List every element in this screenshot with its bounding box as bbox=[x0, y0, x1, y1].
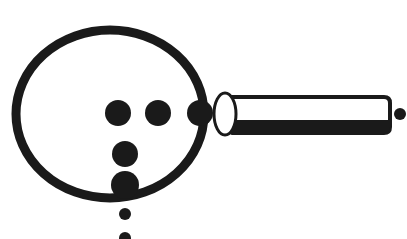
lens-dot-row-2 bbox=[145, 100, 171, 126]
lens-dot-col-1 bbox=[112, 141, 138, 167]
lens-dot-row-3 bbox=[187, 100, 213, 126]
handle-tip-dot bbox=[394, 108, 406, 120]
lens-dot-col-2 bbox=[111, 171, 139, 199]
magnifying-glass-figure bbox=[0, 0, 407, 239]
handle-lower-band bbox=[232, 120, 390, 133]
handle-group bbox=[232, 97, 390, 133]
figure-canvas bbox=[0, 0, 407, 239]
trailing-dot-1 bbox=[119, 208, 131, 220]
ferrule-ellipse bbox=[214, 93, 236, 135]
lens-dot-row-1 bbox=[105, 100, 131, 126]
